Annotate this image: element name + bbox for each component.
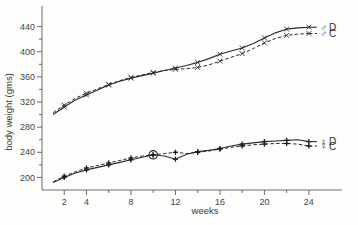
series-line [53, 143, 309, 181]
chart-legend: ♂D♂C♀D♀C [309, 22, 336, 152]
series-markers [62, 31, 311, 107]
chart-figure: 200240280320360400440 24812162024 body w… [0, 0, 358, 225]
y-tick-label: 240 [20, 147, 35, 157]
series-female-D [53, 138, 311, 183]
series-female-C [53, 141, 311, 182]
legend-group-label: C [329, 141, 336, 152]
y-tick-label: 320 [20, 97, 35, 107]
x-tick-label: 12 [170, 197, 180, 207]
series-male-D [53, 25, 311, 115]
x-tick-label: 4 [84, 197, 89, 207]
x-axis-title: weeks [191, 205, 219, 216]
line-chart: 200240280320360400440 24812162024 body w… [0, 0, 358, 225]
series-markers [62, 138, 312, 180]
legend-entry-male-C: ♂C [309, 28, 336, 39]
series-male-C [53, 31, 311, 113]
legend-entry-female-C: ♀C [309, 141, 336, 152]
x-axis-ticks [64, 190, 309, 195]
y-tick-label: 360 [20, 72, 35, 82]
series-line [53, 33, 309, 112]
y-tick-label: 400 [20, 47, 35, 57]
x-axis-tick-labels: 24812162024 [62, 197, 314, 207]
y-axis-title: body weight (gms) [3, 73, 14, 151]
series-markers [62, 25, 311, 110]
legend-group-label: C [329, 28, 336, 39]
series-markers [62, 141, 312, 179]
x-tick-label: 8 [128, 197, 133, 207]
x-tick-label: 2 [62, 197, 67, 207]
x-tick-label: 20 [259, 197, 269, 207]
y-tick-label: 280 [20, 122, 35, 132]
chart-series-layer [53, 25, 311, 183]
y-axis-ticks [37, 27, 42, 178]
legend-sex-symbol: ♀ [320, 141, 327, 151]
y-tick-label: 200 [20, 173, 35, 183]
series-line [53, 27, 309, 114]
y-tick-label: 440 [20, 22, 35, 32]
x-tick-label: 24 [304, 197, 314, 207]
y-axis-tick-labels: 200240280320360400440 [20, 22, 35, 183]
series-line [53, 140, 309, 183]
legend-sex-symbol: ♂ [320, 29, 327, 39]
